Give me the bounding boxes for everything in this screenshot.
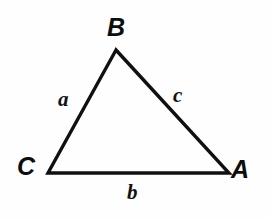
vertex-label-a: A: [231, 157, 249, 182]
side-label-a: a: [58, 89, 69, 110]
vertex-label-b: B: [107, 15, 125, 40]
vertex-label-c: C: [17, 154, 35, 179]
side-label-c: c: [173, 85, 182, 106]
triangle-diagram-canvas: B C A a b c: [0, 0, 271, 219]
triangle-outline-path: [48, 50, 229, 173]
side-label-b: b: [127, 182, 138, 203]
